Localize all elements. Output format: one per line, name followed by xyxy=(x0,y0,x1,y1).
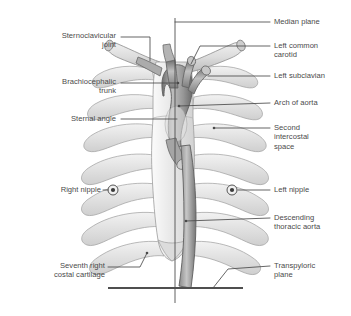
anatomy-figure-page: Sternoclavicular joint Brachiocephalic t… xyxy=(0,0,351,316)
label-brachiocephalic-trunk: Brachiocephalic trunk xyxy=(16,77,116,96)
rib-left-7 xyxy=(186,241,261,274)
label-second-intercostal-space: Second intercostal space xyxy=(274,123,350,151)
label-right-nipple: Right nipple xyxy=(16,185,101,194)
label-left-subclavian: Left subclavian xyxy=(274,71,350,80)
rib-right-3 xyxy=(84,124,160,152)
aortic-window xyxy=(165,106,187,142)
rib-left-4 xyxy=(188,154,269,185)
label-sternoclavicular-joint: Sternoclavicular joint xyxy=(16,31,116,50)
label-sternal-angle: Sternal angle xyxy=(16,114,116,123)
ribs-left xyxy=(185,66,269,274)
label-left-nipple: Left nipple xyxy=(274,185,350,194)
rib-right-6 xyxy=(82,212,165,245)
label-median-plane: Median plane xyxy=(274,17,350,26)
label-seventh-right-costal-cartilage: Seventh right costal cartilage xyxy=(10,261,105,280)
brachiocephalic-branch xyxy=(163,44,175,62)
label-transpyloric-plane: Transpyloric plane xyxy=(274,261,350,280)
label-left-common-carotid: Left common carotid xyxy=(274,41,350,60)
rib-left-2 xyxy=(192,95,262,120)
rib-right-4 xyxy=(81,154,162,185)
rib-left-6 xyxy=(185,212,268,245)
label-descending-thoracic-aorta: Descending thoracic aorta xyxy=(274,213,350,232)
label-arch-of-aorta: Arch of aorta xyxy=(274,98,350,107)
